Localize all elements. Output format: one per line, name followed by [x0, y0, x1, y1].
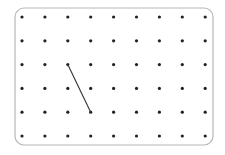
peg-dot — [89, 87, 92, 90]
peg-dot — [158, 39, 161, 42]
peg-dot — [204, 15, 207, 18]
peg-dot — [66, 15, 69, 18]
peg-dot — [66, 87, 69, 90]
peg-dot — [135, 87, 138, 90]
peg-dot — [112, 87, 115, 90]
peg-dot — [43, 15, 46, 18]
peg-dot — [204, 134, 207, 137]
peg-dot — [112, 39, 115, 42]
peg-dot — [43, 39, 46, 42]
peg-dot — [20, 111, 23, 114]
peg-dot — [181, 63, 184, 66]
peg-dot — [66, 134, 69, 137]
peg-dot — [204, 111, 207, 114]
peg-dot — [158, 15, 161, 18]
peg-dot — [158, 87, 161, 90]
peg-dot — [158, 111, 161, 114]
peg-dot — [181, 15, 184, 18]
peg-dot — [135, 63, 138, 66]
peg-dot — [89, 134, 92, 137]
peg-dot — [181, 111, 184, 114]
peg-dot — [20, 134, 23, 137]
peg-dot — [135, 39, 138, 42]
peg-dot — [135, 111, 138, 114]
peg-dot — [158, 63, 161, 66]
peg-dot — [204, 87, 207, 90]
geoboard-frame — [15, 8, 213, 145]
peg-dot — [20, 15, 23, 18]
peg-dot — [20, 63, 23, 66]
peg-dot — [66, 111, 69, 114]
peg-dot — [135, 15, 138, 18]
peg-dot — [20, 87, 23, 90]
peg-dot — [89, 39, 92, 42]
peg-dot — [66, 39, 69, 42]
peg-dot — [43, 111, 46, 114]
peg-dot — [112, 134, 115, 137]
peg-dot — [112, 63, 115, 66]
peg-dot — [89, 63, 92, 66]
peg-dot — [181, 39, 184, 42]
geoboard — [0, 0, 225, 155]
peg-dot — [204, 63, 207, 66]
peg-dot — [89, 15, 92, 18]
peg-dot — [181, 87, 184, 90]
peg-dot — [43, 63, 46, 66]
peg-dot — [158, 134, 161, 137]
peg-dot — [43, 87, 46, 90]
peg-dot — [112, 15, 115, 18]
peg-dot — [43, 134, 46, 137]
peg-dot — [112, 111, 115, 114]
peg-dot — [204, 39, 207, 42]
peg-dot — [20, 39, 23, 42]
peg-dot — [135, 134, 138, 137]
peg-dot — [181, 134, 184, 137]
